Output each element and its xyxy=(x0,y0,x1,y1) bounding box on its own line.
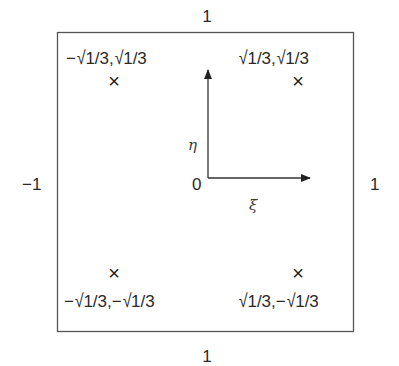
gauss-point-label-top-right: √1/3,√1/3 xyxy=(238,48,309,67)
label-text: 1/3, xyxy=(247,49,275,68)
sqrt-icon: √ xyxy=(287,291,296,310)
label-text: 1/3, xyxy=(85,49,113,68)
top-edge-label: 1 xyxy=(202,8,211,25)
minus-sign: − xyxy=(66,49,76,68)
origin-label: 0 xyxy=(192,176,201,193)
sqrt-icon: √ xyxy=(122,291,131,310)
gauss-point-label-top-left: −√1/3,√1/3 xyxy=(66,48,147,67)
sqrt-icon: √ xyxy=(239,291,248,310)
sqrt-icon: √ xyxy=(277,48,286,67)
gauss-point-marker-bottom-left: × xyxy=(108,263,120,283)
label-text: 1/3,− xyxy=(247,292,285,311)
sqrt-icon: √ xyxy=(75,291,84,310)
eta-label: η xyxy=(188,138,197,153)
gauss-point-label-bottom-left: −√1/3,−√1/3 xyxy=(64,291,155,310)
label-text: 1/3,− xyxy=(83,292,121,311)
label-text: 1/3 xyxy=(123,49,147,68)
sqrt-icon: √ xyxy=(239,48,248,67)
bottom-edge-label: 1 xyxy=(202,348,211,365)
label-text: 1/3 xyxy=(285,49,309,68)
label-text: 1/3 xyxy=(131,292,155,311)
xi-label: ξ xyxy=(249,198,257,213)
sqrt-icon: √ xyxy=(77,48,86,67)
element-boundary xyxy=(58,33,354,332)
left-edge-label: −1 xyxy=(22,176,41,193)
label-text: 1/3 xyxy=(295,292,319,311)
right-edge-label: 1 xyxy=(370,176,379,193)
gauss-point-marker-bottom-right: × xyxy=(292,263,304,283)
minus-sign: − xyxy=(64,292,74,311)
gauss-point-label-bottom-right: √1/3,−√1/3 xyxy=(238,291,319,310)
sqrt-icon: √ xyxy=(115,48,124,67)
gauss-point-marker-top-left: × xyxy=(108,71,120,91)
gauss-point-marker-top-right: × xyxy=(292,71,304,91)
